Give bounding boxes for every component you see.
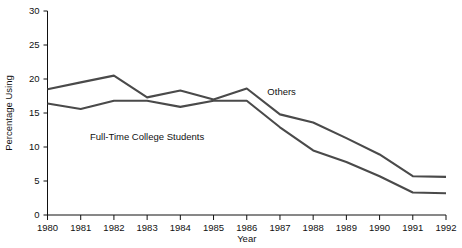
x-tick-label: 1982 [103, 222, 124, 233]
y-tick-label: 0 [34, 209, 39, 220]
x-tick-label: 1984 [170, 222, 191, 233]
x-tick-label: 1991 [402, 222, 423, 233]
y-tick-label: 20 [29, 73, 40, 84]
x-tick-label: 1990 [369, 222, 390, 233]
y-axis-title: Percentage Using [3, 75, 14, 151]
series-line-2 [48, 101, 447, 193]
y-axis-ticks: 051015202530 [29, 5, 48, 220]
y-tick-label: 10 [29, 141, 40, 152]
x-tick-label: 1992 [435, 222, 456, 233]
y-tick-label: 5 [34, 175, 39, 186]
x-tick-label: 1985 [203, 222, 224, 233]
x-tick-label: 1987 [269, 222, 290, 233]
line-chart-figure: 051015202530 198019811982198319841985198… [0, 0, 462, 248]
y-tick-label: 15 [29, 107, 40, 118]
x-tick-label: 1988 [303, 222, 324, 233]
x-tick-label: 1983 [137, 222, 158, 233]
series-label-2: Full-Time College Students [90, 131, 204, 142]
x-tick-label: 1986 [236, 222, 257, 233]
x-tick-label: 1980 [37, 222, 58, 233]
chart-plot-area: 051015202530 198019811982198319841985198… [0, 0, 462, 248]
x-tick-label: 1981 [70, 222, 91, 233]
y-tick-label: 30 [29, 5, 40, 16]
x-axis-title: Year [237, 233, 256, 244]
x-axis-ticks: 1980198119821983198419851986198719881989… [37, 215, 457, 233]
x-tick-label: 1989 [336, 222, 357, 233]
y-tick-label: 25 [29, 39, 40, 50]
series-line-1 [48, 76, 447, 177]
series-label-1: Others [267, 86, 296, 97]
